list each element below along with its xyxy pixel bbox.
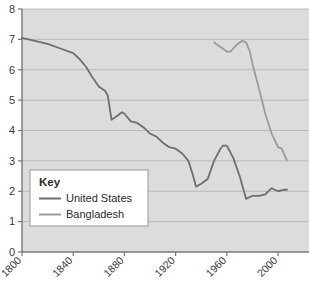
y-tick-label-2: 2 [9,185,15,197]
y-tick-label-8: 8 [9,3,15,15]
x-tick-label-2000: 2000 [254,254,279,279]
x-tick-label-1920: 1920 [152,254,177,279]
x-tick-label-1880: 1880 [101,254,126,279]
x-axis-group: 180018401880192019602000 [0,252,309,279]
fertility-rate-line-chart: 012345678 180018401880192019602000 KeyUn… [0,0,309,285]
chart-legend: KeyUnited StatesBangladesh [30,170,148,226]
legend-label-bangladesh: Bangladesh [66,208,124,220]
chart-canvas: 012345678 180018401880192019602000 KeyUn… [0,0,309,285]
x-tick-label-1840: 1840 [50,254,75,279]
y-tick-label-7: 7 [9,33,15,45]
y-tick-label-6: 6 [9,64,15,76]
x-tick-label-1960: 1960 [203,254,228,279]
y-tick-label-1: 1 [9,215,15,227]
y-tick-label-3: 3 [9,155,15,167]
y-axis-group: 012345678 [9,3,22,258]
legend-label-united-states: United States [66,192,133,204]
x-tick-label-1800: 1800 [0,254,24,279]
legend-title: Key [39,176,61,188]
y-tick-label-4: 4 [9,124,15,136]
y-tick-label-5: 5 [9,94,15,106]
